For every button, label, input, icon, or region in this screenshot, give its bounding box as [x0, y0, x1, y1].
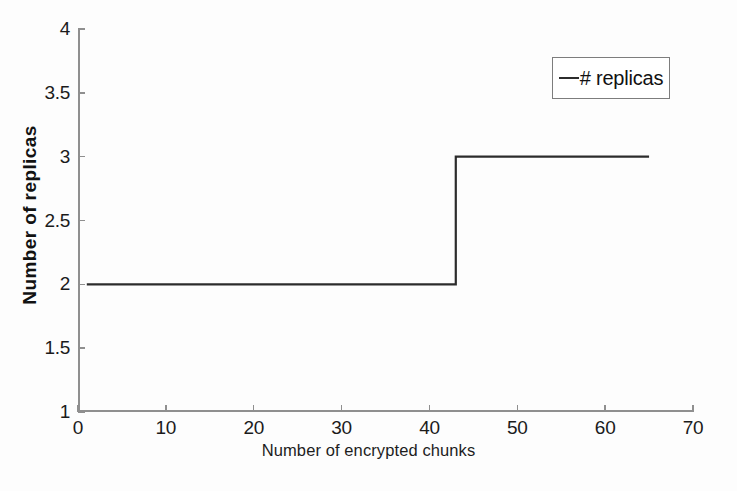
y-tick-label: 1.5 [20, 337, 70, 359]
x-tick-label: 60 [595, 417, 616, 439]
line-dash-icon [559, 77, 579, 79]
x-tick-label: 70 [683, 417, 704, 439]
y-axis-title: Number of replicas [19, 125, 41, 304]
x-axis-title: Number of encrypted chunks [0, 441, 737, 460]
legend-item-label: # replicas [580, 67, 664, 90]
y-tick-label: 3.5 [20, 82, 70, 104]
chart-figure: 11.522.533.54 010203040506070 Number of … [0, 0, 737, 491]
y-tick-label: 1 [20, 401, 70, 423]
x-tick-label: 30 [331, 417, 352, 439]
x-tick-label: 50 [507, 417, 528, 439]
x-tick-label: 0 [73, 417, 83, 439]
x-tick-label: 40 [419, 417, 440, 439]
x-tick-label: 20 [243, 417, 264, 439]
series-line-replicas [87, 157, 649, 285]
y-tick-label: 4 [20, 18, 70, 40]
chart-legend[interactable]: # replicas [552, 57, 670, 99]
x-tick-label: 10 [156, 417, 177, 439]
